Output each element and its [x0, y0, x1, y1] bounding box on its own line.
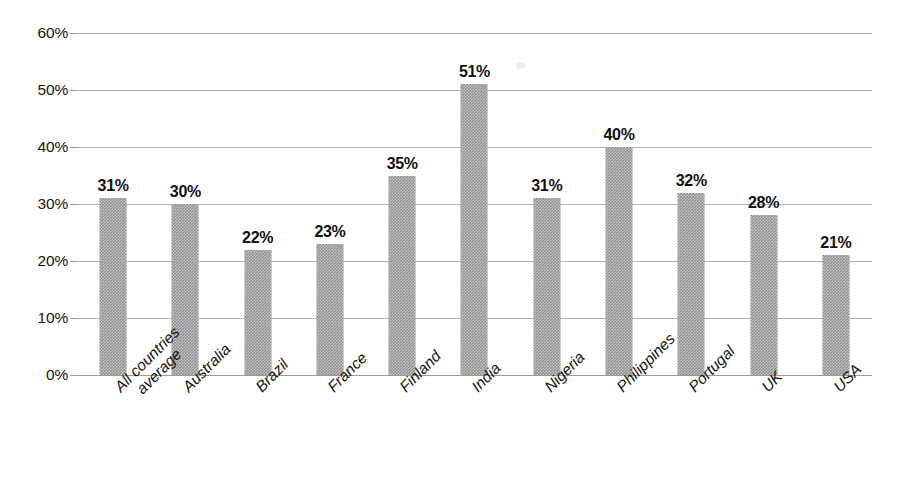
bar-group: 21% [800, 33, 872, 375]
x-label-slot: Portugal [655, 375, 727, 486]
bar-group: 22% [222, 33, 294, 375]
bar-value-label: 23% [314, 223, 345, 241]
bar-value-label: 40% [603, 126, 634, 144]
bar-chart: 60%50%40%30%20%10%0% 31%30%22%23%35%51%3… [0, 0, 898, 486]
bar[interactable] [316, 244, 343, 375]
x-label-slot: USA [800, 375, 872, 486]
bar[interactable] [822, 255, 849, 375]
bar-group: 35% [366, 33, 438, 375]
bar-value-label: 51% [459, 63, 490, 81]
x-axis-labels: All countriesaverageAustraliaBrazilFranc… [77, 375, 872, 486]
bar[interactable] [244, 250, 271, 375]
bar-group: 28% [727, 33, 799, 375]
bar-value-label: 30% [170, 183, 201, 201]
bar-value-label: 31% [98, 177, 129, 195]
y-tick-label-60: 60% [0, 24, 68, 42]
bar-group: 40% [583, 33, 655, 375]
bar-group: 51% [438, 33, 510, 375]
scan-speck [516, 62, 525, 69]
bar-group: 32% [655, 33, 727, 375]
x-label-slot: Brazil [222, 375, 294, 486]
x-label-slot: Australia [149, 375, 221, 486]
y-tick-label-50: 50% [0, 81, 68, 99]
bar[interactable] [606, 147, 633, 375]
bar-value-label: 22% [242, 229, 273, 247]
x-label-slot: Nigeria [511, 375, 583, 486]
x-label-slot: Philippines [583, 375, 655, 486]
bar-value-label: 35% [387, 155, 418, 173]
bar-value-label: 32% [676, 172, 707, 190]
y-tick-label-10: 10% [0, 309, 68, 327]
x-label-slot: UK [727, 375, 799, 486]
x-label-slot: India [438, 375, 510, 486]
y-tick-label-30: 30% [0, 195, 68, 213]
bar[interactable] [389, 176, 416, 376]
bar[interactable] [461, 84, 488, 375]
bar-group: 31% [511, 33, 583, 375]
bar-group: 31% [77, 33, 149, 375]
bar-value-label: 31% [531, 177, 562, 195]
y-tick-label-20: 20% [0, 252, 68, 270]
bar-value-label: 28% [748, 194, 779, 212]
bar-value-label: 21% [820, 234, 851, 252]
bar-group: 30% [149, 33, 221, 375]
bar[interactable] [533, 198, 560, 375]
bar[interactable] [750, 215, 777, 375]
x-label-slot: France [294, 375, 366, 486]
bar-group: 23% [294, 33, 366, 375]
y-tick-label-40: 40% [0, 138, 68, 156]
y-tick-label-0: 0% [0, 366, 68, 384]
bar[interactable] [100, 198, 127, 375]
bars-layer: 31%30%22%23%35%51%31%40%32%28%21% [77, 33, 872, 375]
bar[interactable] [678, 193, 705, 375]
x-label-slot: Finland [366, 375, 438, 486]
x-label-slot: All countriesaverage [77, 375, 149, 486]
